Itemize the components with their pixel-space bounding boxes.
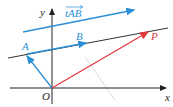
origin-label: O [42,90,50,102]
vector-diagram: y x O A B P tAB [0,0,173,107]
point-b-label: B [76,30,83,42]
x-axis-label: x [164,91,170,103]
construction-line [85,57,115,100]
point-p-label: P [150,30,158,42]
vector-tab-label: tAB [65,7,82,19]
vector-tab-label-group: tAB [65,6,83,20]
vector-oa [27,56,52,88]
vector-ab [27,43,86,54]
y-axis-label: y [39,6,45,18]
point-a-label: A [21,40,29,52]
